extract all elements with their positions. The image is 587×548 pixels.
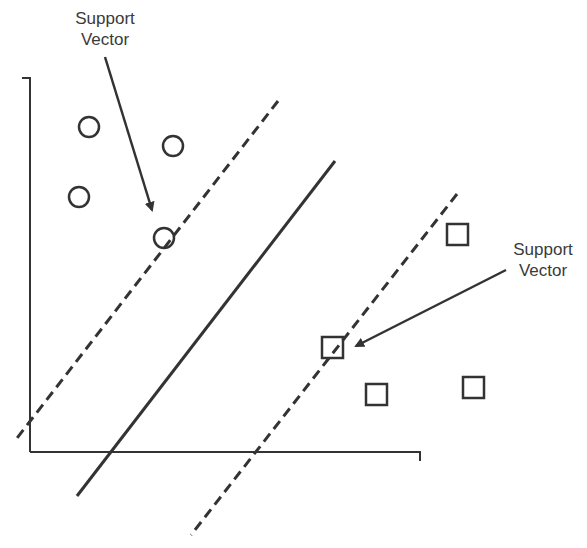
hyperplane-solid-line	[77, 161, 335, 496]
circle-data-point	[163, 136, 183, 156]
support-vector-label-top-line1: Support	[75, 9, 135, 28]
arrow-to-square-support-vector-icon	[356, 270, 506, 346]
class-circle-points	[69, 117, 183, 248]
class-square-points	[322, 224, 484, 405]
support-vector-label-right-line1: Support	[513, 240, 573, 259]
support-vector-label-right-line2: Vector	[519, 261, 568, 280]
arrow-to-circle-support-vector-icon	[105, 57, 152, 210]
circle-data-point	[79, 117, 99, 137]
x-axis	[30, 452, 420, 461]
lower-margin-dashed-line	[191, 194, 457, 535]
circle-support-vector-point	[154, 228, 174, 248]
svm-diagram: Support Vector Support Vector	[0, 0, 587, 548]
support-vector-label-top-line2: Vector	[81, 30, 130, 49]
circle-data-point	[69, 187, 89, 207]
square-support-vector-point	[322, 337, 343, 358]
square-data-point	[447, 224, 468, 245]
y-axis	[22, 78, 30, 452]
square-data-point	[366, 384, 387, 405]
upper-margin-dashed-line	[14, 101, 278, 442]
square-data-point	[463, 377, 484, 398]
